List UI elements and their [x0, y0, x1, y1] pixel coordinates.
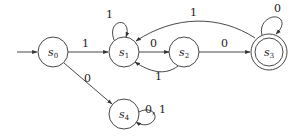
edge-label-s1-s2: 0	[150, 37, 157, 50]
edge-s3-self	[261, 17, 282, 35]
state-s1-sub: 1	[125, 52, 129, 60]
state-diagram: 1 0 1 0 1 0 1 0 0, 1 s0 s1 s2 s3 s4	[0, 0, 295, 137]
edge-label-s3-s1: 1	[190, 6, 197, 19]
edge-label-s0-s1: 1	[82, 37, 89, 50]
state-s4-sub: 4	[125, 114, 130, 122]
edge-label-s2-s1: 1	[155, 70, 162, 83]
state-s4: s4	[109, 99, 139, 129]
state-s0-sub: 0	[54, 52, 58, 60]
state-s2-sub: 2	[185, 52, 189, 60]
edge-label-s3-self: 0	[274, 2, 281, 15]
edge-label-s0-s4: 0	[84, 72, 91, 85]
state-s3-sub: 3	[270, 52, 274, 60]
state-s3-accepting: s3	[251, 34, 287, 70]
state-s0: s0	[38, 37, 68, 67]
state-s1: s1	[109, 37, 139, 67]
edge-label-s1-self: 1	[106, 8, 113, 21]
edge-label-s2-s3: 0	[221, 37, 228, 50]
state-s2: s2	[169, 37, 199, 67]
edge-label-s4-self: 0, 1	[145, 103, 166, 116]
